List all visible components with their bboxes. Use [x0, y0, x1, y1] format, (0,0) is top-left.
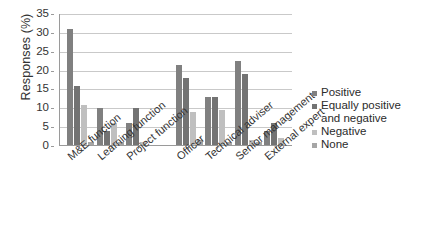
- legend-item[interactable]: Negative: [312, 125, 420, 138]
- bar-chart: Responses (%) 05101520253035 M&E functio…: [0, 0, 423, 246]
- y-axis-tick-mark: [51, 14, 54, 15]
- y-axis-tick-mark: [51, 52, 54, 53]
- y-axis-tick-labels: 05101520253035: [26, 14, 54, 146]
- legend-item[interactable]: and negative: [312, 112, 420, 125]
- y-axis-tick-mark: [51, 127, 54, 128]
- legend-item[interactable]: Positive: [312, 86, 420, 99]
- y-axis-tick-mark: [51, 108, 54, 109]
- bar: [212, 97, 218, 146]
- y-axis-line: [59, 14, 60, 146]
- y-axis-tick-label: 35: [36, 8, 49, 20]
- plot-area: [59, 14, 292, 146]
- y-axis-tick-label: 15: [36, 84, 49, 96]
- y-axis-tick-label: 5: [43, 121, 49, 133]
- bar: [205, 97, 211, 146]
- chart-legend: PositiveEqually positiveand negativeNega…: [312, 86, 420, 151]
- y-axis-tick-mark: [51, 146, 54, 147]
- legend-label: Negative: [321, 125, 366, 138]
- y-axis-tick-label: 20: [36, 65, 49, 77]
- y-axis-tick-label: 30: [36, 27, 49, 39]
- y-axis-tick-label: 10: [36, 103, 49, 115]
- legend-item[interactable]: None: [312, 138, 420, 151]
- y-axis-tick-mark: [51, 71, 54, 72]
- y-axis-tick-mark: [51, 89, 54, 90]
- legend-label: None: [321, 138, 349, 151]
- legend-swatch-icon: [312, 143, 317, 148]
- y-axis-tick-label: 0: [43, 140, 49, 152]
- legend-label: Equally positive: [321, 99, 401, 112]
- legend-label: and negative: [321, 112, 387, 125]
- legend-label: Positive: [321, 86, 361, 99]
- bar: [74, 86, 80, 146]
- legend-swatch-icon: [312, 104, 317, 109]
- legend-swatch-icon: [312, 117, 317, 122]
- legend-swatch-icon: [312, 91, 317, 96]
- legend-swatch-icon: [312, 130, 317, 135]
- y-axis-tick-mark: [51, 33, 54, 34]
- bar-group: [205, 14, 232, 146]
- y-axis-tick-label: 25: [36, 46, 49, 58]
- bars-layer: [59, 14, 292, 146]
- legend-item[interactable]: Equally positive: [312, 99, 420, 112]
- bar-group: [67, 14, 94, 146]
- bar-group: [176, 14, 203, 146]
- bar: [67, 29, 73, 146]
